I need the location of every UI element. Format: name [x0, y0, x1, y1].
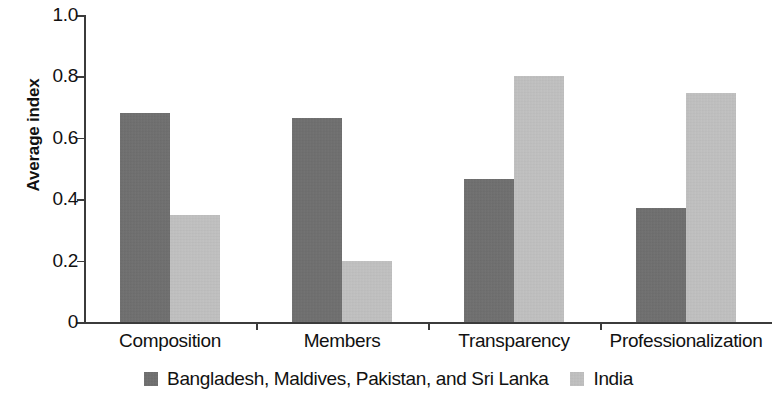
- y-tick-mark: [77, 15, 84, 17]
- y-tick-label: 0.2: [52, 250, 78, 272]
- y-tick-label: 0.6: [52, 127, 78, 149]
- legend-swatch-icon: [570, 372, 584, 386]
- bar-professionalization-series1: [636, 208, 686, 322]
- bar-professionalization-series2: [686, 93, 736, 322]
- bar-transparency-series2: [514, 76, 564, 322]
- bar-members-series2: [342, 261, 392, 322]
- x-axis-label-professionalization: Professionalization: [600, 330, 772, 352]
- legend-item-2[interactable]: India: [570, 368, 632, 390]
- bar-members-series1: [292, 118, 342, 322]
- bar-composition-series1: [120, 113, 170, 322]
- y-tick-mark: [77, 322, 84, 324]
- y-tick-label: 1.0: [52, 4, 78, 26]
- chart-legend: Bangladesh, Maldives, Pakistan, and Sri …: [0, 368, 777, 390]
- bar-chart: Average index 00.20.40.60.81.0 Compositi…: [0, 0, 777, 402]
- y-tick-label: 0.8: [52, 65, 78, 87]
- y-tick-mark: [77, 76, 84, 78]
- x-axis-label-composition: Composition: [84, 330, 256, 352]
- plot-area: 00.20.40.60.81.0: [84, 15, 772, 322]
- x-tick-mark: [428, 322, 430, 330]
- legend-label: Bangladesh, Maldives, Pakistan, and Sri …: [167, 368, 548, 390]
- legend-item-1[interactable]: Bangladesh, Maldives, Pakistan, and Sri …: [144, 368, 548, 390]
- y-tick-label: 0: [68, 311, 78, 333]
- y-axis-line: [84, 15, 86, 322]
- bar-composition-series2: [170, 215, 220, 322]
- bar-transparency-series1: [464, 179, 514, 322]
- y-tick-label: 0.4: [52, 188, 78, 210]
- y-axis-title: Average index: [24, 55, 44, 215]
- x-tick-mark: [256, 322, 258, 330]
- x-axis-label-transparency: Transparency: [428, 330, 600, 352]
- y-tick-mark: [77, 138, 84, 140]
- legend-label: India: [593, 368, 632, 390]
- x-tick-mark: [600, 322, 602, 330]
- legend-swatch-icon: [144, 372, 158, 386]
- y-tick-mark: [77, 261, 84, 263]
- x-axis-label-members: Members: [256, 330, 428, 352]
- y-tick-mark: [77, 199, 84, 201]
